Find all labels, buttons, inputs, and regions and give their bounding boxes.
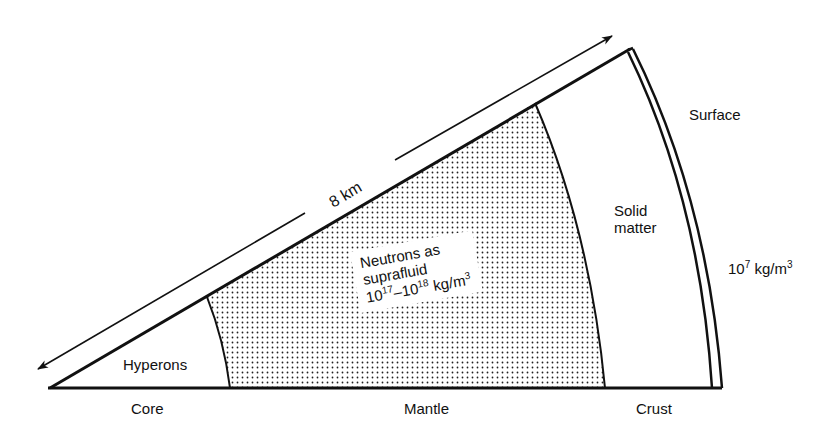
hyperons-label: Hyperons: [123, 356, 187, 373]
mantle-label: Mantle: [404, 400, 449, 417]
surface-density-label: 107 kg/m3: [728, 260, 793, 277]
crust-label: Crust: [636, 400, 672, 417]
surface-label: Surface: [689, 106, 741, 123]
solid-matter-label: Solid matter: [614, 202, 657, 237]
core-label: Core: [131, 400, 164, 417]
